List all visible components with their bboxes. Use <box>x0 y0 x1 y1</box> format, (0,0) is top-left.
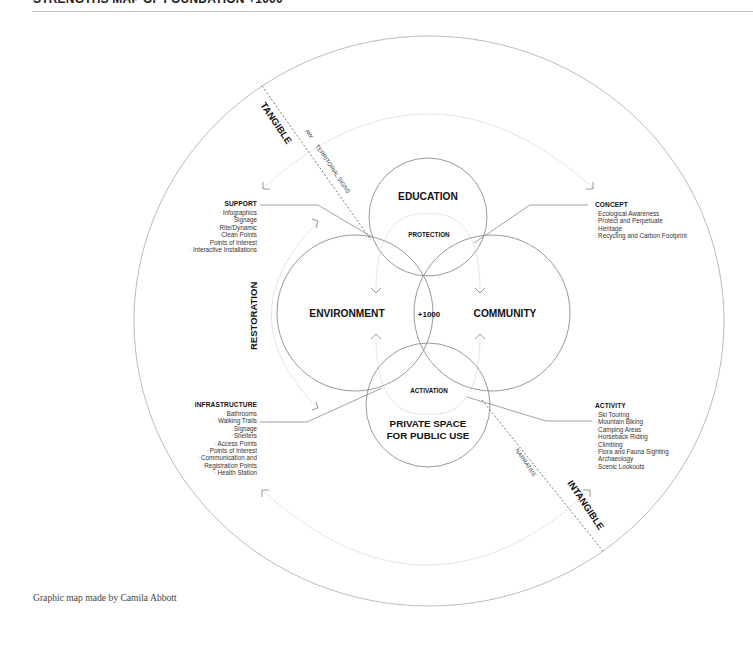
leader-support <box>260 205 372 237</box>
protection-label: PROTECTION <box>408 231 450 238</box>
intangible-label: INTANGIBLE <box>565 478 606 532</box>
list-item: Shelters <box>157 432 257 439</box>
list-item: Communication and <box>157 454 257 461</box>
list-item: Signage <box>157 425 257 432</box>
list-item: Points of Interest <box>157 447 257 454</box>
center-label: +1000 <box>418 310 441 319</box>
circle-private-space <box>366 343 490 467</box>
list-item: Signage <box>157 216 257 223</box>
narrative-label: NARRATIVE <box>514 447 537 478</box>
environment-label: ENVIRONMENT <box>309 308 385 319</box>
list-item: Climbing <box>595 441 725 448</box>
list-item: Recycling and Carbon Footprint <box>595 232 725 239</box>
restoration-label: RESTORATION <box>248 282 259 350</box>
concept-group: CONCEPT Ecological Awareness Protect and… <box>595 201 725 240</box>
image-caption: Graphic map made by Camila Abbott <box>33 592 177 603</box>
circle-education <box>369 158 487 276</box>
aw-label: AW <box>304 128 314 139</box>
concept-title: CONCEPT <box>595 201 725 208</box>
list-item: Scenic Lookouts <box>595 463 725 470</box>
outer-circle <box>134 36 724 606</box>
list-item: Camping Areas <box>595 426 725 433</box>
list-item: Health Station <box>157 469 257 476</box>
list-item: Rite/Dynamic <box>157 224 257 231</box>
arc-arrowheads <box>262 182 593 497</box>
protection-arc <box>376 214 480 292</box>
activation-label: ACTIVATION <box>410 387 448 394</box>
list-item: Archaeology <box>595 455 725 462</box>
list-item: Walking Trails <box>157 417 257 424</box>
private-space-label-line2: FOR PUBLIC USE <box>387 430 470 441</box>
list-item: Mountain Biking <box>595 418 725 425</box>
list-item: Ecological Awareness <box>595 210 725 217</box>
activity-title: ACTIVITY <box>595 402 725 409</box>
list-item: Horseback Riding <box>595 433 725 440</box>
strengths-diagram: TANGIBLE AW TERRITORIAL SIGNS INTANGIBLE… <box>0 0 753 647</box>
education-label: EDUCATION <box>398 191 458 202</box>
leader-infrastructure <box>260 388 382 422</box>
list-item: Access Points <box>157 440 257 447</box>
chevron-down-icon <box>371 288 381 293</box>
activity-group: ACTIVITY Ski Touring Mountain Biking Cam… <box>595 402 725 470</box>
leader-concept <box>474 205 588 243</box>
list-item: Interactive Installations <box>157 246 257 253</box>
support-title: SUPPORT <box>157 200 257 207</box>
leader-activity <box>467 397 592 421</box>
infrastructure-group: INFRASTRUCTURE Bathrooms Walking Trails … <box>157 401 257 477</box>
list-item: Clean Points <box>157 231 257 238</box>
list-item: Points of Interest <box>157 239 257 246</box>
territorial-signs-label: TERRITORIAL SIGNS <box>314 143 351 194</box>
top-arc <box>263 114 593 188</box>
list-item: Ski Touring <box>595 411 725 418</box>
list-item: Bathrooms <box>157 410 257 417</box>
infrastructure-title: INFRASTRUCTURE <box>157 401 257 408</box>
list-item: Registration Points <box>157 462 257 469</box>
flow-arcs <box>262 114 593 565</box>
support-group: SUPPORT Infographics Signage Rite/Dynami… <box>157 200 257 253</box>
list-item: Heritage <box>595 225 725 232</box>
list-item: Infographics <box>157 209 257 216</box>
list-item: Flora and Fauna Sighting <box>595 448 725 455</box>
private-space-label-line1: PRIVATE SPACE <box>390 418 467 429</box>
community-label: COMMUNITY <box>474 308 537 319</box>
circle-labels: EDUCATION ENVIRONMENT COMMUNITY +1000 PR… <box>309 191 536 441</box>
list-item: Protect and Perpetuate <box>595 217 725 224</box>
bottom-arc <box>262 490 590 565</box>
activation-arc <box>376 336 480 414</box>
